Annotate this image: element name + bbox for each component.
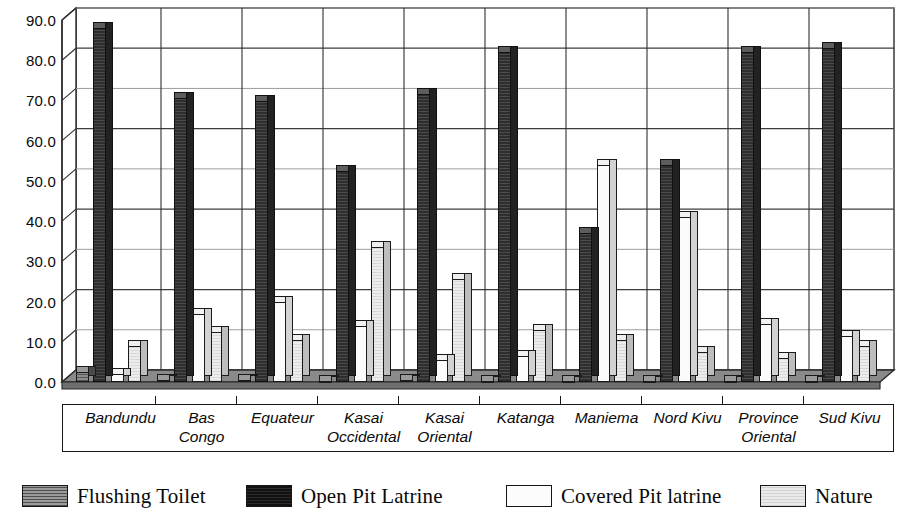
bar-face	[157, 380, 170, 382]
bar-face	[741, 52, 754, 382]
bar-side	[430, 88, 437, 376]
bar-side	[251, 374, 258, 376]
bar-open-pit-latrine	[579, 233, 592, 382]
legend-swatch-icon	[760, 485, 806, 507]
bar-side	[754, 46, 761, 376]
bar-face	[481, 381, 494, 383]
y-axis-tick-label: 30.0	[26, 253, 56, 270]
bar-side	[610, 159, 617, 376]
bar-face	[76, 372, 89, 382]
bar-flushing-toilet	[805, 381, 818, 383]
bar-face	[498, 52, 511, 382]
bar-flushing-toilet	[481, 381, 494, 383]
bar-side	[708, 346, 715, 376]
bar-face	[660, 165, 673, 382]
legend-item-covered-pit-latrine[interactable]: Covered Pit latrine	[506, 484, 722, 509]
legend-item-flushing-toilet[interactable]: Flushing Toilet	[22, 484, 206, 509]
bar-side	[303, 334, 310, 376]
bar-face	[643, 381, 656, 383]
bar-side	[187, 92, 194, 376]
bar-open-pit-latrine	[174, 98, 187, 382]
bar-face	[336, 171, 349, 382]
bar-face	[174, 98, 187, 382]
bar-side	[494, 375, 501, 377]
legend-label: Flushing Toilet	[77, 484, 206, 509]
bar-side	[789, 352, 796, 376]
bar-side	[106, 22, 113, 376]
bar-side	[818, 375, 825, 377]
y-axis-tick-label: 50.0	[26, 172, 56, 189]
bar-side	[737, 375, 744, 377]
bar-side	[349, 165, 356, 376]
chart-legend: Flushing ToiletOpen Pit LatrineCovered P…	[0, 476, 923, 516]
bar-face	[822, 48, 835, 382]
bar-side	[268, 95, 275, 376]
bar-side	[870, 340, 877, 376]
y-axis-tick-label: 0.0	[35, 374, 56, 391]
bar-side	[546, 324, 553, 376]
bar-side	[673, 159, 680, 376]
bar-series-container	[62, 8, 908, 394]
bar-side	[691, 211, 698, 376]
y-axis-tick-label: 70.0	[26, 92, 56, 109]
legend-swatch-icon	[506, 485, 552, 507]
plot-area	[62, 8, 908, 394]
legend-item-open-pit-latrine[interactable]: Open Pit Latrine	[246, 484, 443, 509]
bar-side	[384, 241, 391, 376]
bar-flushing-toilet	[724, 381, 737, 383]
y-axis-tick-label: 60.0	[26, 132, 56, 149]
bar-side	[222, 326, 229, 376]
y-axis-tick-label: 90.0	[26, 12, 56, 29]
bar-side	[124, 368, 131, 376]
bar-side	[592, 227, 599, 376]
bar-side	[89, 366, 96, 376]
bar-face	[93, 28, 106, 382]
legend-swatch-icon	[22, 485, 68, 507]
bar-face	[562, 381, 575, 383]
bar-side	[529, 350, 536, 376]
bar-side	[575, 375, 582, 377]
bar-side	[772, 318, 779, 376]
bar-side	[853, 330, 860, 376]
bar-face	[255, 101, 268, 382]
bar-side	[511, 46, 518, 376]
bar-side	[656, 375, 663, 377]
bar-side	[286, 296, 293, 376]
bar-side	[627, 334, 634, 376]
legend-swatch-icon	[246, 485, 292, 507]
bar-open-pit-latrine	[336, 171, 349, 382]
bar-flushing-toilet	[319, 381, 332, 383]
y-axis: 0.010.020.030.040.050.060.070.080.090.0	[0, 0, 62, 400]
bar-side	[448, 354, 455, 376]
bar-side	[835, 42, 842, 376]
bar-open-pit-latrine	[255, 101, 268, 382]
bar-side	[413, 374, 420, 376]
bar-nature	[128, 346, 141, 382]
x-axis-category-label: Sud Kivu	[796, 408, 903, 427]
bar-open-pit-latrine	[660, 165, 673, 382]
legend-item-nature[interactable]: Nature	[760, 484, 873, 509]
bar-face	[579, 233, 592, 382]
chart-figure: 0.010.020.030.040.050.060.070.080.090.0 …	[0, 0, 923, 531]
bar-face	[238, 380, 251, 382]
y-axis-tick-label: 40.0	[26, 213, 56, 230]
bar-side	[170, 374, 177, 376]
y-axis-tick-label: 20.0	[26, 293, 56, 310]
bar-face	[128, 346, 141, 382]
bar-flushing-toilet	[76, 372, 89, 382]
bar-open-pit-latrine	[741, 52, 754, 382]
bar-face	[417, 94, 430, 382]
bar-open-pit-latrine	[93, 28, 106, 382]
bar-flushing-toilet	[562, 381, 575, 383]
legend-label: Nature	[815, 484, 873, 509]
bar-side	[367, 320, 374, 376]
y-axis-tick-label: 80.0	[26, 52, 56, 69]
bar-flushing-toilet	[643, 381, 656, 383]
y-axis-tick-label: 10.0	[26, 333, 56, 350]
bar-side	[141, 340, 148, 376]
bar-face	[319, 381, 332, 383]
bar-face	[400, 380, 413, 382]
bar-side	[465, 273, 472, 376]
bar-flushing-toilet	[238, 380, 251, 382]
x-axis-category-box: BandunduBas CongoEquateurKasai Occidenta…	[62, 404, 894, 452]
